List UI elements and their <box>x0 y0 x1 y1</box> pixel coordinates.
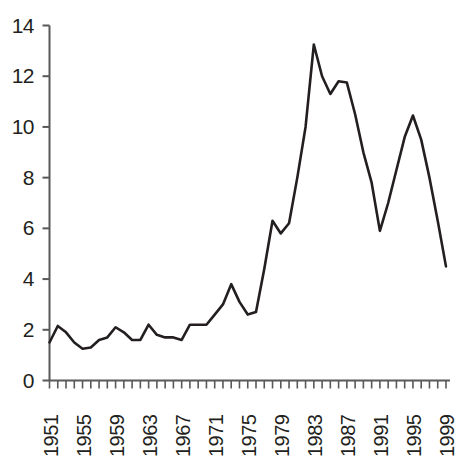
x-axis-tick-label: 1979 <box>272 414 292 457</box>
y-axis-tick-label: 2 <box>0 319 34 340</box>
y-axis-tick-label: 12 <box>0 65 34 86</box>
y-axis-tick-label: 14 <box>0 15 34 36</box>
x-axis-tick-label: 1987 <box>338 414 358 457</box>
line-chart: 14121086420 1951195519591963196719711975… <box>0 0 456 464</box>
x-axis-tick-label: 1971 <box>206 414 226 457</box>
x-axis-tick-label: 1995 <box>404 414 424 457</box>
x-axis-tick-label: 1967 <box>173 414 193 457</box>
x-axis-tick-label: 1951 <box>41 414 61 457</box>
y-axis-tick-label: 10 <box>0 116 34 137</box>
data-series-line <box>50 45 446 349</box>
x-axis-tick-label: 1983 <box>305 414 325 457</box>
y-axis-tick-label: 0 <box>0 370 34 391</box>
x-axis-tick-label: 1959 <box>107 414 127 457</box>
chart-tick-marks <box>43 26 446 389</box>
chart-plot-area <box>0 0 456 464</box>
x-axis-tick-label: 1991 <box>371 414 391 457</box>
y-axis-tick-label: 6 <box>0 217 34 238</box>
y-axis-tick-label: 4 <box>0 268 34 289</box>
chart-axes <box>50 26 450 381</box>
x-axis-tick-label: 1999 <box>437 414 456 457</box>
x-axis-tick-label: 1975 <box>239 414 259 457</box>
y-axis-tick-label: 8 <box>0 167 34 188</box>
x-axis-tick-label: 1955 <box>74 414 94 457</box>
x-axis-tick-label: 1963 <box>140 414 160 457</box>
